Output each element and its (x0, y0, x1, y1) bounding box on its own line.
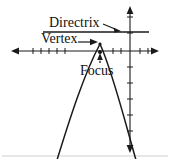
dotted-arrow-up-icon (97, 53, 103, 60)
parabola-figure: Directrix Vertex Focus (0, 0, 170, 159)
vertex-pointer (78, 39, 98, 45)
focus-label: Focus (80, 64, 113, 78)
vertex-point-dot-icon (98, 42, 101, 45)
parabola-curve (57, 44, 136, 159)
arrow-right-icon (151, 48, 159, 55)
arrow-left-icon (11, 48, 19, 55)
focus-pointer (97, 53, 103, 63)
vertex-label: Vertex (41, 32, 78, 46)
arrow-right-icon (90, 39, 98, 45)
directrix-label: Directrix (49, 16, 100, 30)
x-axis (11, 48, 159, 55)
arrow-up-icon (127, 6, 134, 14)
